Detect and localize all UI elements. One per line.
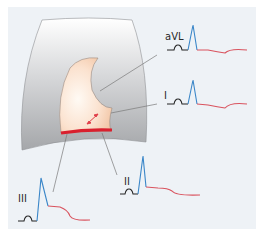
diagram-canvas: aVL I II III xyxy=(0,0,263,235)
lead-label-ii: II xyxy=(124,176,130,187)
lead-label-iii: III xyxy=(18,193,27,204)
lead-label-i: I xyxy=(164,90,167,101)
lead-label-avl: aVL xyxy=(165,31,184,42)
